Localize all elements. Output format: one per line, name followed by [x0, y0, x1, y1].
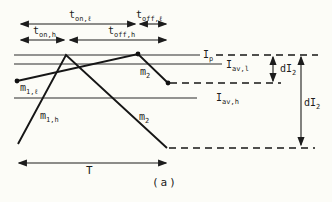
period-label: T [86, 164, 93, 177]
light-waveform-start-dot [15, 79, 20, 84]
waveform-figure: ton,ℓ toff,ℓ ton,h toff,h Ip Iav,l Iav,h… [0, 0, 332, 202]
light-waveform-valley-dot [166, 81, 171, 86]
current-waveform-diagram: ton,ℓ toff,ℓ ton,h toff,h Ip Iav,l Iav,h… [0, 0, 332, 202]
light-waveform-peak-dot [136, 52, 141, 57]
figure-caption: (a) [152, 176, 178, 189]
